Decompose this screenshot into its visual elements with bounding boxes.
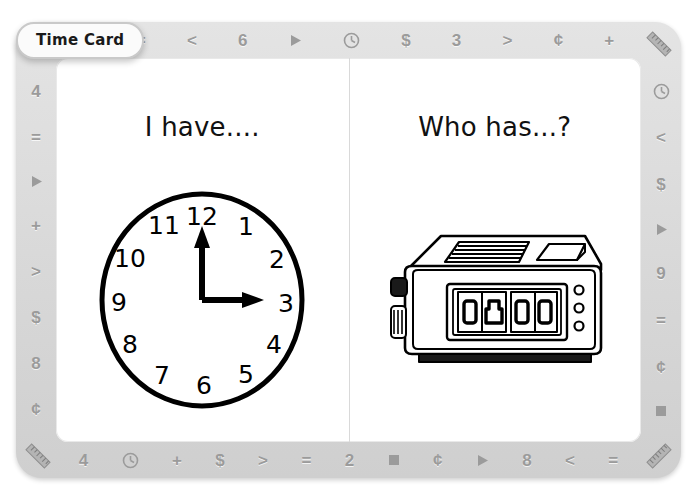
ruler-icon [18,436,58,476]
clock-numeral-11: 11 [148,211,180,240]
radio-knob-icon [391,278,407,296]
number-eight: 8 [522,452,531,469]
equals-sign: = [31,129,41,146]
number-four: 4 [31,83,40,100]
clock-numeral-1: 1 [238,212,254,241]
clock-numeral-2: 2 [269,245,285,274]
dollar-sign: $ [656,176,665,193]
clock-numeral-10: 10 [114,244,146,273]
border-strip-left: 4=+>$8¢ [16,68,56,432]
plus-sign: + [604,32,614,49]
ruler-icon [639,24,679,64]
dollar-sign: $ [215,452,224,469]
greater-than-sign: > [31,263,41,280]
number-eight: 8 [31,355,40,372]
card-page: I have.... 12 1 2 3 4 5 6 [56,58,641,442]
square-icon [388,454,400,466]
clock-numeral-3: 3 [278,289,294,318]
equals-sign: = [656,312,666,329]
time-card-tab[interactable]: Time Card [16,22,144,59]
left-page-half: I have.... 12 1 2 3 4 5 6 [56,58,349,442]
equals-sign: = [301,452,311,469]
triangle-right-icon [289,34,302,47]
square-icon [655,405,667,417]
cent-sign: ¢ [656,359,665,376]
number-six: 6 [238,32,247,49]
radio-slider-icon [391,306,406,338]
digital-clock-radio-illustration [349,168,642,432]
clock-icon [343,32,360,49]
cent-sign: ¢ [554,32,563,49]
who-has-heading: Who has...? [349,112,642,142]
dollar-sign: $ [31,309,40,326]
ruler-icon [639,436,679,476]
triangle-right-icon [30,175,43,188]
time-card-tab-label: Time Card [36,31,124,49]
greater-than-sign: > [503,32,513,49]
equals-sign: = [608,452,618,469]
plus-sign: + [31,217,41,234]
less-than-sign: < [187,32,197,49]
clock-numeral-7: 7 [154,361,170,390]
speaker-grille-icon [445,242,529,262]
triangle-right-icon [476,454,489,467]
less-than-sign: < [565,452,575,469]
clock-numeral-4: 4 [266,330,282,359]
dollar-sign: $ [401,32,410,49]
clock-numeral-9: 9 [111,288,127,317]
clock-numeral-8: 8 [122,330,138,359]
greater-than-sign: > [258,452,268,469]
cent-sign: ¢ [433,452,442,469]
i-have-heading: I have.... [56,112,349,142]
card-border-frame: =<6$3>¢+ <$9=¢ 4+$>=2¢8<= 4=+>$8¢ I have… [16,22,681,478]
plus-sign: + [172,452,182,469]
border-strip-bottom: 4+$>=2¢8<= [62,442,635,478]
indicator-light-icon [574,286,583,331]
time-card: =<6$3>¢+ <$9=¢ 4+$>=2¢8<= 4=+>$8¢ I have… [16,22,681,478]
clock-icon [653,83,670,100]
triangle-right-icon [655,223,668,236]
border-strip-top: =<6$3>¢+ [62,22,635,58]
number-nine: 9 [656,265,665,282]
number-three: 3 [452,32,461,49]
clock-numeral-6: 6 [196,371,212,400]
right-page-half: Who has...? [349,58,642,442]
cent-sign: ¢ [31,401,40,418]
clock-icon [122,452,139,469]
border-strip-right: <$9=¢ [641,68,681,432]
clock-numeral-5: 5 [238,360,254,389]
number-two: 2 [345,452,354,469]
number-four: 4 [79,452,88,469]
analog-clock-illustration: 12 1 2 3 4 5 6 7 8 9 10 11 [56,168,349,432]
less-than-sign: < [656,129,666,146]
